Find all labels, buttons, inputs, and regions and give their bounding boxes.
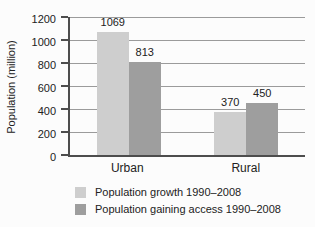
- plot-area: 1069813 370450: [68, 17, 305, 157]
- category-label-rural: Rural: [187, 161, 306, 175]
- y-tick-1000: [61, 39, 68, 41]
- bar-value-label: 450: [253, 88, 271, 99]
- y-tick-label-1200: 1200: [32, 14, 56, 25]
- bar-urban-population-growth-1990-2008: 1069: [97, 32, 129, 155]
- y-tick-0: [61, 154, 68, 156]
- legend-swatch-growth: [75, 187, 86, 198]
- y-tick-label-800: 800: [38, 60, 56, 71]
- y-axis-tick-labels: 020040060080010001200: [0, 17, 61, 157]
- bar-group-urban: 1069813: [70, 17, 188, 155]
- y-tick-600: [61, 85, 68, 87]
- y-tick-label-400: 400: [38, 106, 56, 117]
- y-tick-label-200: 200: [38, 129, 56, 140]
- bar-urban-population-gaining-access-1990-2008: 813: [129, 62, 161, 155]
- y-tick-200: [61, 131, 68, 133]
- legend-label-growth: Population growth 1990–2008: [95, 186, 241, 198]
- y-tick-label-600: 600: [38, 83, 56, 94]
- y-tick-400: [61, 108, 68, 110]
- bar-rural-population-gaining-access-1990-2008: 450: [246, 103, 278, 155]
- y-tick-label-0: 0: [50, 152, 56, 163]
- y-tick-800: [61, 62, 68, 64]
- bar-group-rural: 370450: [188, 17, 306, 155]
- legend: Population growth 1990–2008 Population g…: [75, 186, 281, 215]
- legend-row-growth: Population growth 1990–2008: [75, 186, 281, 198]
- bar-value-label: 370: [221, 97, 239, 108]
- bar-value-label: 813: [136, 47, 154, 58]
- legend-swatch-access: [75, 204, 86, 215]
- y-tick-label-1000: 1000: [32, 37, 56, 48]
- legend-row-access: Population gaining access 1990–2008: [75, 203, 281, 215]
- bar-value-label: 1069: [101, 17, 125, 28]
- x-axis-category-labels: Urban Rural: [68, 161, 305, 175]
- bar-chart-figure: Population (million) 0200400600800100012…: [0, 0, 315, 227]
- bar-rural-population-growth-1990-2008: 370: [214, 112, 246, 155]
- category-label-urban: Urban: [68, 161, 187, 175]
- y-tick-1200: [61, 16, 68, 18]
- legend-label-access: Population gaining access 1990–2008: [95, 203, 281, 215]
